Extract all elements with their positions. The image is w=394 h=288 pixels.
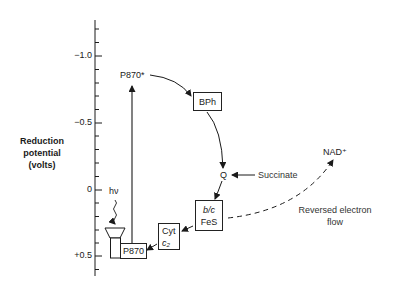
photosynthetic-electron-transport-diagram: −1.0 −0.5 0 +0.5 Reduction potential (vo…	[0, 0, 394, 288]
bph-label: BPh	[199, 96, 216, 108]
tick-label-0: 0	[52, 184, 92, 194]
reversed-flow-line: flow	[295, 217, 375, 227]
reversed-flow-label: Reversed electron flow	[295, 205, 375, 227]
arrow-q-to-bc	[215, 181, 222, 199]
bc-fes-box: b/c FeS	[195, 200, 223, 231]
q-label: Q	[220, 170, 227, 180]
p870-label: P870	[123, 245, 144, 257]
tick-label-neg05: −0.5	[52, 117, 92, 127]
p870-box: P870	[120, 243, 147, 259]
arrow-bph-to-q	[207, 112, 223, 168]
y-axis	[95, 20, 102, 276]
nad-label: NAD⁺	[323, 147, 347, 157]
light-hv-label: hν	[109, 186, 119, 196]
light-wave-arrow	[114, 200, 117, 224]
bph-box: BPh	[193, 92, 222, 111]
axis-title-line: potential	[6, 147, 78, 159]
p870-excited-label: P870*	[120, 70, 145, 80]
c2-label: c₂	[162, 237, 170, 249]
axis-title-line: (volts)	[6, 159, 78, 171]
arrow-cyt-to-p870	[147, 244, 157, 250]
cyt-label: Cyt	[162, 225, 176, 237]
tick-label-neg1: −1.0	[52, 50, 92, 60]
bc-label: b/c	[203, 204, 215, 216]
tick-label-pos05: +0.5	[52, 250, 92, 260]
fes-label: FeS	[201, 216, 218, 228]
arrow-bc-to-cyt	[182, 226, 193, 231]
cyt-c2-box: Cyt c₂	[158, 223, 180, 250]
succinate-label: Succinate	[258, 170, 298, 180]
axis-title: Reduction potential (volts)	[6, 135, 78, 171]
reversed-flow-line: Reversed electron	[295, 205, 375, 215]
arrow-p870star-to-bph	[150, 75, 191, 96]
axis-title-line: Reduction	[6, 135, 78, 147]
